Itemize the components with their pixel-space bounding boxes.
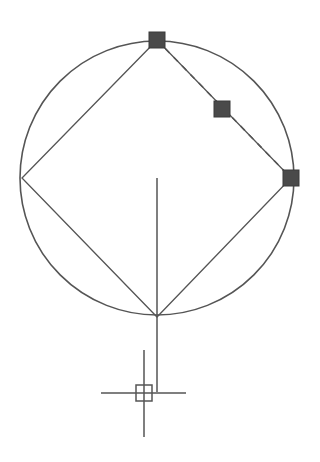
drawing-canvas[interactable] [0,0,320,462]
grip-top[interactable] [149,32,165,48]
crosshair-cursor-icon [101,350,186,437]
grip-midpoint[interactable] [214,101,230,117]
grip-right[interactable] [283,170,299,186]
